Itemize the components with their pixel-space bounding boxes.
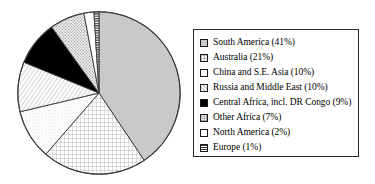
legend-item-australia[interactable]: Australia (21%) [200,50,358,65]
legend-item-china-and-se-asia[interactable]: China and S.E. Asia (10%) [200,65,358,80]
pie-slices-group: South America (41%)Australia (21%)China … [18,12,180,174]
pie-svg: South America (41%)Australia (21%)China … [12,6,186,180]
legend-label-north-america: North America (2%) [213,127,290,138]
legend-label-south-america: South America (41%) [213,37,295,48]
legend-label-central-africa: Central Africa, incl. DR Congo (9%) [213,97,351,108]
legend-label-europe: Europe (1%) [213,142,261,153]
legend-item-north-america[interactable]: North America (2%) [200,125,358,140]
legend-item-south-america[interactable]: South America (41%) [200,35,358,50]
legend-swatch-other-africa [200,114,208,122]
legend-label-other-africa: Other Africa (7%) [213,112,281,123]
legend-item-europe[interactable]: Europe (1%) [200,140,358,155]
legend-swatch-central-africa [200,99,208,107]
legend-item-other-africa[interactable]: Other Africa (7%) [200,110,358,125]
legend-box: South America (41%) Australia (21%) Chin… [193,29,359,157]
legend-item-central-africa[interactable]: Central Africa, incl. DR Congo (9%) [200,95,358,110]
legend-item-russia-and-middle-east[interactable]: Russia and Middle East (10%) [200,80,358,95]
legend-swatch-south-america [200,39,208,47]
legend-swatch-north-america [200,129,208,137]
legend-label-china-and-se-asia: China and S.E. Asia (10%) [213,67,314,78]
legend-swatch-china-and-se-asia [200,69,208,77]
pie-chart-graphic: South America (41%)Australia (21%)China … [12,6,186,180]
legend-label-russia-and-middle-east: Russia and Middle East (10%) [213,82,328,93]
legend-swatch-australia [200,54,208,62]
legend-swatch-europe [200,144,208,152]
pie-chart-figure: South America (41%)Australia (21%)China … [0,0,375,184]
legend-swatch-russia-and-middle-east [200,84,208,92]
legend-label-australia: Australia (21%) [213,52,273,63]
